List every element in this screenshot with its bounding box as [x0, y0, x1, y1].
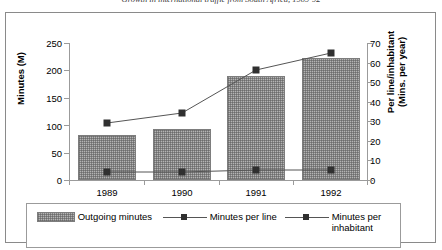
figure-caption: Growth in international traffic from Sou… [0, 0, 442, 4]
x-label-1991: 1991 [221, 187, 291, 198]
chart-legend: Outgoing minutes Minutes per line Minute… [26, 203, 401, 248]
legend-label-minutes-per-line: Minutes per line [210, 211, 277, 222]
x-label-1989: 1989 [72, 187, 142, 198]
marker-minutes-per-line-1992 [328, 50, 335, 57]
x-label-1990: 1990 [147, 187, 217, 198]
marker-minutes-per-inhabitant-1992 [328, 167, 335, 174]
legend-label-outgoing-minutes: Outgoing minutes [78, 211, 152, 222]
legend-item-minutes-per-inhabitant: Minutes per inhabitant [285, 211, 394, 233]
hatched-bar-swatch-icon [37, 212, 75, 222]
marker-minutes-per-line-1989 [104, 120, 111, 127]
marker-minutes-per-inhabitant-1989 [104, 169, 111, 176]
line-series-layer [6, 13, 437, 188]
marker-minutes-per-inhabitant-1991 [253, 167, 260, 174]
line-minutes-per-line [107, 53, 331, 123]
chart-frame: Minutes (M) Per line/inhabitant (Mins. p… [5, 12, 436, 243]
legend-item-outgoing-minutes: Outgoing minutes [37, 211, 152, 222]
x-label-1992: 1992 [296, 187, 366, 198]
plot-area: Minutes (M) Per line/inhabitant (Mins. p… [6, 13, 437, 188]
line-marker-swatch-icon [163, 212, 207, 222]
line-marker-swatch-icon [285, 212, 329, 222]
marker-minutes-per-inhabitant-1990 [179, 169, 186, 176]
line-minutes-per-inhabitant [107, 170, 331, 172]
legend-label-minutes-per-inhabitant: Minutes per inhabitant [332, 211, 394, 233]
marker-minutes-per-line-1991 [253, 67, 260, 74]
marker-minutes-per-line-1990 [179, 110, 186, 117]
legend-item-minutes-per-line: Minutes per line [163, 211, 277, 222]
